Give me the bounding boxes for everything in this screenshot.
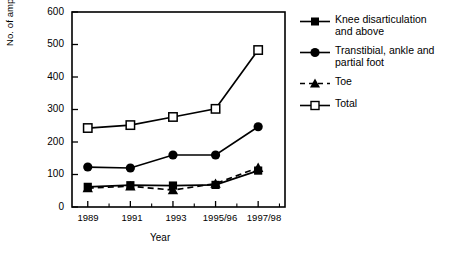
legend-key-open-square-icon (300, 99, 330, 112)
legend-key-filled-square-icon (300, 15, 330, 28)
series-layer (83, 46, 264, 194)
data-point (211, 105, 219, 113)
legend-label-knee: Knee disarticulation and above (330, 14, 427, 37)
legend-label-total: Total (330, 98, 357, 110)
legend-label-transtibial: Transtibial, ankle and partial foot (330, 45, 434, 68)
data-point (126, 121, 134, 129)
data-point (254, 122, 263, 131)
series-3 (84, 46, 263, 132)
legend-label-toe: Toe (330, 76, 352, 88)
data-point (168, 150, 177, 159)
chart-legend: Knee disarticulation and above Transtibi… (300, 14, 458, 120)
data-point (83, 162, 92, 171)
data-point (126, 163, 135, 172)
legend-item-toe[interactable]: Toe (300, 76, 458, 90)
data-point (169, 113, 177, 121)
legend-item-transtibial[interactable]: Transtibial, ankle and partial foot (300, 45, 458, 68)
legend-item-knee[interactable]: Knee disarticulation and above (300, 14, 458, 37)
data-point (254, 46, 262, 54)
series-1 (83, 122, 263, 172)
axis-ticks (72, 12, 279, 207)
legend-key-dashed-triangle-icon (300, 77, 330, 90)
chart-figure: No. of amputations Year 600 500 400 300 … (0, 0, 460, 255)
plot-frame (72, 12, 285, 207)
legend-key-filled-circle-icon (300, 46, 330, 59)
legend-item-total[interactable]: Total (300, 98, 458, 112)
data-point (84, 124, 92, 132)
data-point (211, 150, 220, 159)
